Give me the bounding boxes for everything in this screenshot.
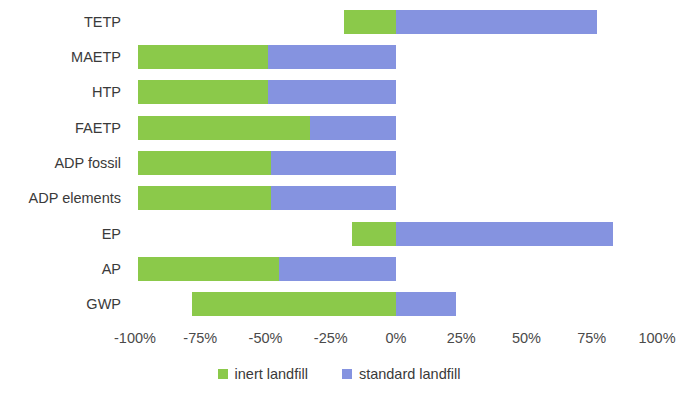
- bar-row: [135, 39, 657, 74]
- bar-segment-standard-landfill: [271, 151, 396, 175]
- bar-track: [135, 145, 657, 180]
- x-tick-label: -25%: [314, 330, 348, 346]
- bar-segment-inert-landfill: [138, 80, 269, 104]
- bar-track: [135, 39, 657, 74]
- bar-segment-inert-landfill: [138, 151, 271, 175]
- bar-segment-inert-landfill: [192, 292, 396, 316]
- category-label: EP: [102, 216, 121, 251]
- x-tick-label: -75%: [183, 330, 217, 346]
- bar-track: [135, 181, 657, 216]
- legend-swatch-icon: [218, 369, 228, 379]
- bar-segment-inert-landfill: [138, 45, 269, 69]
- bar-row: [135, 181, 657, 216]
- category-axis-labels: TETPMAETPHTPFAETPADP fossilADP elementsE…: [0, 4, 129, 322]
- bar-row: [135, 75, 657, 110]
- bar-segment-inert-landfill: [352, 222, 396, 246]
- legend-item[interactable]: inert landfill: [218, 366, 308, 382]
- bar-segment-inert-landfill: [138, 186, 271, 210]
- legend-label: inert landfill: [235, 366, 308, 382]
- bar-segment-standard-landfill: [310, 116, 396, 140]
- category-label: TETP: [84, 4, 121, 39]
- legend-swatch-icon: [342, 369, 352, 379]
- bar-segment-standard-landfill: [396, 10, 597, 34]
- plot-area: [135, 4, 657, 322]
- x-tick-label: 0%: [386, 330, 407, 346]
- bar-track: [135, 110, 657, 145]
- bar-track: [135, 216, 657, 251]
- bar-row: [135, 287, 657, 322]
- category-label: ADP elements: [29, 181, 121, 216]
- bar-track: [135, 4, 657, 39]
- bar-track: [135, 287, 657, 322]
- x-tick-label: 75%: [577, 330, 606, 346]
- legend-item[interactable]: standard landfill: [342, 366, 461, 382]
- bar-track: [135, 251, 657, 286]
- category-label: AP: [102, 251, 121, 286]
- category-label: ADP fossil: [54, 145, 121, 180]
- bar-segment-inert-landfill: [138, 116, 310, 140]
- bar-track: [135, 75, 657, 110]
- category-label: FAETP: [75, 110, 121, 145]
- x-tick-label: -50%: [249, 330, 283, 346]
- bar-rows: [135, 4, 657, 322]
- category-label: MAETP: [71, 39, 121, 74]
- bar-segment-standard-landfill: [396, 222, 613, 246]
- bar-segment-inert-landfill: [344, 10, 396, 34]
- bar-segment-standard-landfill: [279, 257, 396, 281]
- category-label: GWP: [86, 287, 121, 322]
- bar-row: [135, 251, 657, 286]
- bar-segment-standard-landfill: [268, 45, 396, 69]
- chart-legend: inert landfillstandard landfill: [0, 366, 678, 382]
- stacked-bar-chart: TETPMAETPHTPFAETPADP fossilADP elementsE…: [0, 0, 678, 395]
- bar-row: [135, 4, 657, 39]
- bar-row: [135, 145, 657, 180]
- bar-segment-inert-landfill: [138, 257, 279, 281]
- bar-row: [135, 110, 657, 145]
- x-tick-label: -100%: [114, 330, 156, 346]
- x-tick-label: 100%: [638, 330, 675, 346]
- bar-segment-standard-landfill: [271, 186, 396, 210]
- x-tick-label: 25%: [447, 330, 476, 346]
- legend-label: standard landfill: [359, 366, 461, 382]
- bar-row: [135, 216, 657, 251]
- x-tick-label: 50%: [512, 330, 541, 346]
- bar-segment-standard-landfill: [268, 80, 396, 104]
- category-label: HTP: [92, 75, 121, 110]
- bar-segment-standard-landfill: [396, 292, 456, 316]
- x-axis-tick-labels: -100%-75%-50%-25%0%25%50%75%100%: [135, 330, 657, 352]
